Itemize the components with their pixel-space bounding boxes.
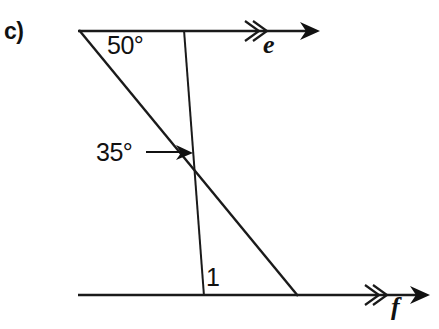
angle-label-50: 50° — [107, 33, 143, 58]
geometry-diagram: c) 50° 35° 1 e f — [0, 0, 439, 329]
line-f-group — [78, 285, 430, 305]
angle-35-pointer-group — [146, 145, 193, 160]
part-label-c: c) — [4, 20, 23, 43]
line-label-e: e — [263, 32, 275, 58]
angle-label-1: 1 — [206, 265, 220, 290]
angle-label-35: 35° — [96, 140, 132, 165]
line-label-f: f — [391, 294, 400, 320]
